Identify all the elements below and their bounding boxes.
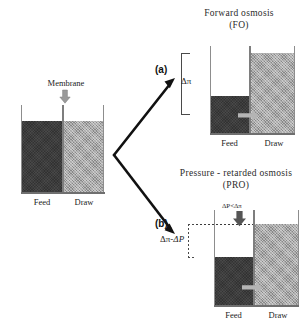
fo-feed-label: Feed [208,138,251,148]
branch-arrow-a [114,78,175,155]
pro-beaker-base [214,305,299,307]
pro-beaker: Feed Draw [212,210,306,326]
fo-title-line1: Forward osmosis [176,8,302,20]
pro-draw-solution [254,224,298,306]
pro-feed-label: Feed [212,310,255,320]
fo-draw-label: Draw [251,138,297,148]
membrane-label: Membrane [28,78,104,88]
fo-draw-solution [250,53,294,134]
pro-net-driving-force-bracket [188,224,214,258]
source-draw-label: Draw [63,197,105,207]
membrane-down-arrow-icon [58,90,72,104]
pro-draw-label: Draw [255,310,301,320]
fo-panel: Forward osmosis (FO) Δπ Fe [176,8,302,156]
pro-panel: Pressure - retarded osmosis (PRO) ΔP<Δπ … [166,168,306,326]
pro-water-flux-right-arrow-icon [242,282,264,293]
pro-bracket-delta-p: ΔP [173,234,184,244]
pro-applied-pressure-label: ΔP<Δπ [222,202,242,209]
source-beaker-right-wall [103,105,104,193]
source-feed-label: Feed [21,197,63,207]
pro-beaker-right-wall [298,210,299,306]
figure-canvas: Membrane Feed Draw [0,0,306,328]
fo-beaker: Feed Draw [208,46,300,156]
pro-bracket-delta-pi: Δπ- [160,234,173,244]
pro-delta-p-symbol: ΔP [222,202,230,209]
pro-net-driving-force-label: Δπ-ΔP [160,234,184,244]
fo-delta-pi-label: Δπ [181,76,191,86]
pro-delta-pi-symbol: Δπ [234,202,242,209]
branch-tag-a: (a) [155,64,167,75]
fo-title-line2: (FO) [176,20,302,32]
fo-beaker-base [210,133,295,135]
source-membrane-divider [62,105,63,193]
source-draw-solution [63,121,103,193]
fo-beaker-right-wall [294,46,295,134]
pro-title-line1: Pressure - retarded osmosis [166,168,306,180]
fo-water-flux-right-arrow-icon [238,110,260,121]
source-feed-solution [22,121,63,193]
source-beaker-base [21,192,105,194]
pro-title-line2: (PRO) [166,180,306,192]
source-beaker: Membrane Feed Draw [18,78,114,214]
